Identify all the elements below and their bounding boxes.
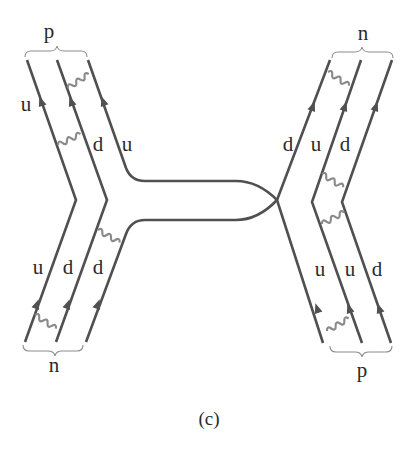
gluon-icon: [321, 172, 345, 189]
left-quark-line-3-lower: [86, 60, 330, 342]
right-quark-lines: [312, 60, 392, 343]
left-bottom-quark-label-3: d: [93, 255, 104, 279]
left-quark-line-1: [25, 60, 76, 342]
right-top-hadron-label: n: [358, 21, 369, 45]
right-bottom-quark-label-1: u: [315, 257, 326, 281]
right-top-quark-label-3: d: [340, 132, 351, 156]
left-top-quark-label-2: d: [93, 132, 104, 156]
right-quark-line-3: [342, 60, 392, 343]
figure-caption: (c): [198, 408, 219, 430]
gluon-icon: [67, 72, 91, 90]
left-bottom-quark-label-1: u: [33, 255, 44, 279]
right-quark-line-2: [312, 60, 362, 343]
gluon-icon: [321, 210, 345, 226]
feynman-diagram: p n u d u u d d n p d u d u u d (c): [0, 0, 419, 449]
left-top-brace: [25, 46, 87, 57]
right-bottom-brace: [330, 346, 392, 357]
gluon-icon: [97, 228, 121, 245]
left-bottom-hadron-label: n: [49, 353, 60, 377]
gluon-icon: [326, 316, 350, 333]
arrow-icon: [340, 100, 351, 112]
right-top-quark-label-2: u: [311, 132, 322, 156]
right-bottom-quark-label-2: u: [345, 257, 356, 281]
arrow-icon: [98, 95, 109, 107]
left-top-quark-label-1: u: [21, 92, 32, 116]
right-top-brace: [332, 47, 393, 58]
right-top-quark-label-1: d: [283, 132, 294, 156]
left-bottom-quark-label-2: d: [63, 255, 74, 279]
left-top-quark-label-3: u: [122, 132, 133, 156]
arrow-icon: [374, 302, 385, 314]
gluon-icon: [57, 132, 82, 147]
left-quark-line-3-upper: [88, 60, 323, 343]
gluon-icon: [327, 70, 351, 88]
left-top-hadron-label: p: [44, 19, 55, 43]
gluon-icon: [34, 313, 58, 331]
right-bottom-hadron-label: p: [357, 358, 368, 382]
right-bottom-quark-label-3: d: [372, 257, 383, 281]
left-quark-line-2: [56, 60, 107, 342]
